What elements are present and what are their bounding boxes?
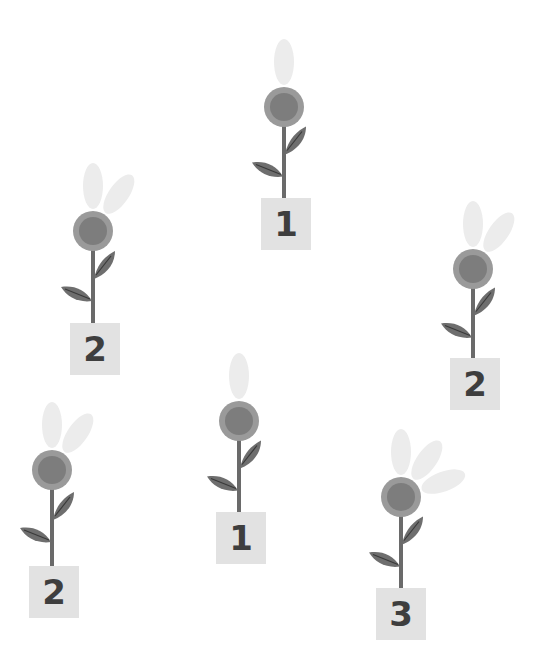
- flower-icon: [0, 0, 546, 656]
- number-sign: 3: [376, 588, 426, 640]
- petal: [391, 429, 411, 475]
- sign-number: 3: [389, 597, 413, 631]
